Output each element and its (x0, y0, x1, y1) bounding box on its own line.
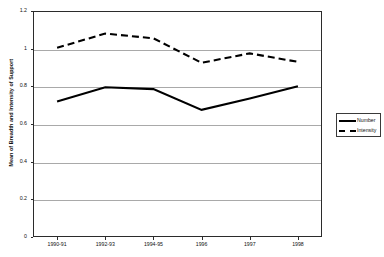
legend-item[interactable]: Intensity (339, 127, 380, 136)
legend-swatch-solid-icon (339, 120, 356, 122)
line-chart: 00.20.40.60.811.2 1990-911992-931994-951… (0, 0, 384, 257)
chart-legend: NumberIntensity (336, 113, 381, 137)
x-tick-mark (153, 237, 154, 240)
x-tick-mark (298, 237, 299, 240)
x-tick-mark (57, 237, 58, 240)
series-layer (0, 0, 384, 257)
series-line-number (57, 86, 298, 110)
x-tick-mark (202, 237, 203, 240)
legend-label: Number (357, 118, 375, 123)
x-tick-mark (105, 237, 106, 240)
x-tick-mark (250, 237, 251, 240)
legend-swatch-dashed-icon (339, 130, 356, 132)
legend-item[interactable]: Number (339, 117, 380, 126)
legend-label: Intensity (357, 128, 376, 133)
series-line-intensity (57, 34, 298, 63)
